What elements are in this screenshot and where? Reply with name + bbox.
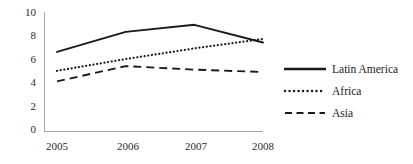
legend-swatch-dotted-icon [283,85,327,97]
legend-swatch-solid-icon [283,63,327,75]
x-tick-label: 2008 [243,141,283,152]
legend-item-africa: Africa [283,80,411,102]
series-line-asia [57,66,263,81]
y-tick-label: 4 [14,77,36,88]
series-line-latin-america [57,25,263,52]
y-tick-label: 8 [14,30,36,41]
legend-label: Asia [332,107,353,119]
y-tick-label: 2 [14,101,36,112]
x-tick-label: 2007 [176,141,216,152]
line-chart: 10 8 6 4 2 0 2005 2006 2007 2008 Latin A… [0,0,413,164]
y-tick-label: 0 [14,124,36,135]
legend-label: Latin America [332,63,398,75]
y-tick-label: 6 [14,54,36,65]
chart-legend: Latin America Africa Asia [283,58,411,124]
legend-swatch-dashed-icon [283,107,327,119]
y-tick-label: 10 [14,7,36,18]
x-tick-label: 2005 [37,141,77,152]
x-tick-label: 2006 [108,141,148,152]
legend-item-latin-america: Latin America [283,58,411,80]
legend-label: Africa [332,85,361,97]
legend-item-asia: Asia [283,102,411,124]
